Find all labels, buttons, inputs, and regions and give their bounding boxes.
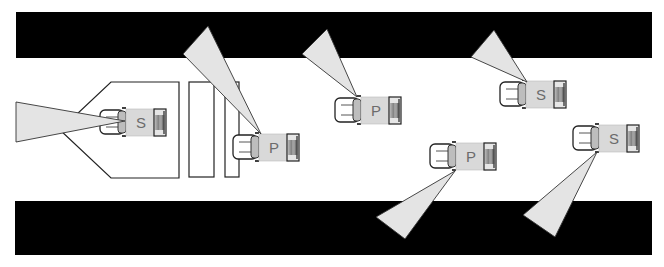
vehicle-label: P (466, 148, 476, 165)
vehicle-p2[interactable]: P (335, 96, 401, 124)
vehicle-s3[interactable]: S (573, 124, 639, 152)
vehicle-label: P (371, 102, 381, 119)
vehicle-label: P (269, 139, 279, 156)
vehicle-label: S (609, 130, 619, 147)
windshield-icon (251, 136, 259, 158)
windshield-icon (353, 99, 361, 121)
vehicle-p1[interactable]: P (233, 133, 299, 161)
windshield-icon (518, 83, 526, 105)
diagram-canvas: SPPSPS (0, 0, 664, 267)
bay-1 (189, 82, 214, 177)
vehicle-label: S (536, 86, 546, 103)
sensor-cone-s1 (16, 102, 125, 142)
vehicle-s2[interactable]: S (500, 80, 566, 108)
windshield-icon (591, 127, 599, 149)
diagram-svg: SPPSPS (0, 0, 664, 267)
windshield-icon (448, 145, 456, 167)
vehicle-label: S (136, 114, 146, 131)
vehicle-p3[interactable]: P (430, 142, 496, 170)
vehicles-layer: SPPSPS (100, 80, 639, 170)
